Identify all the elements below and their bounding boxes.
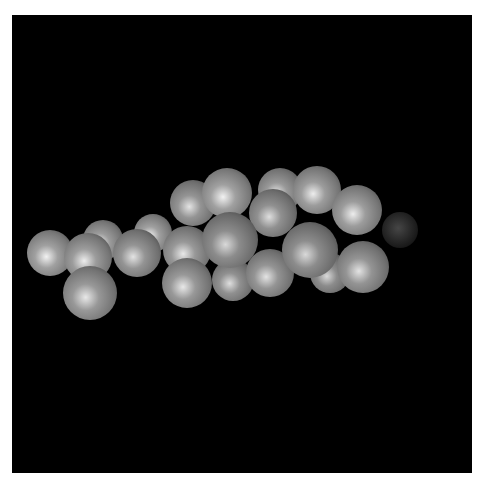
atom-sphere [202, 168, 252, 218]
atom-sphere [332, 185, 382, 235]
atom-sphere [337, 241, 389, 293]
atom-sphere [162, 258, 212, 308]
atom-sphere [202, 212, 258, 268]
oxygen-atom-sphere [382, 212, 418, 248]
atom-sphere [282, 222, 338, 278]
atom-sphere [113, 229, 161, 277]
atom-sphere [63, 266, 117, 320]
